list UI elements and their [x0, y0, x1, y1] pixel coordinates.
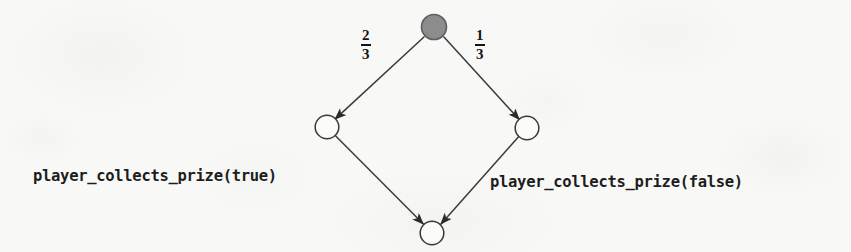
edge-left-to-bottom — [335, 136, 423, 225]
edge-root-to-left — [335, 37, 425, 120]
fraction-two-thirds: 2 3 — [361, 28, 371, 62]
edge-label-root-to-left: 2 3 — [361, 28, 371, 62]
label-player-collects-prize-false: player_collects_prize(false) — [490, 173, 743, 191]
right-node[interactable] — [515, 116, 539, 140]
root-node[interactable] — [422, 15, 447, 40]
label-player-collects-prize-true: player_collects_prize(true) — [33, 167, 277, 185]
fraction-denominator: 3 — [475, 47, 485, 62]
transition-graph — [0, 0, 851, 252]
fraction-one-third: 1 3 — [475, 28, 485, 62]
bottom-node[interactable] — [420, 221, 444, 245]
edge-line-left-to-bottom — [335, 136, 423, 225]
edge-line-root-to-left — [335, 37, 425, 120]
edge-label-root-to-right: 1 3 — [475, 28, 485, 62]
fraction-numerator: 1 — [475, 28, 485, 44]
fraction-denominator: 3 — [361, 47, 371, 62]
left-node[interactable] — [315, 115, 339, 139]
fraction-numerator: 2 — [361, 28, 371, 44]
figure-canvas: 2 3 1 3 player_collects_prize(true) play… — [0, 0, 851, 252]
